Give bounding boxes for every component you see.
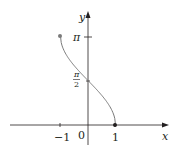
y-tick-label-pi-half-numerator: π bbox=[73, 70, 80, 79]
y-tick-label-pi-half-denominator: 2 bbox=[74, 80, 79, 89]
x-tick-label-1: 1 bbox=[112, 131, 119, 144]
x-tick-label-neg1: −1 bbox=[54, 131, 70, 144]
start-point bbox=[58, 34, 62, 38]
end-point bbox=[113, 123, 117, 127]
y-axis-label: y bbox=[78, 11, 86, 24]
y-tick-label-pi: π bbox=[72, 31, 81, 44]
x-tick-label-0: 0 bbox=[78, 129, 85, 142]
x-axis-label: x bbox=[162, 130, 169, 143]
x-axis-arrow-icon bbox=[162, 123, 169, 128]
y-axis-arrow-icon bbox=[86, 11, 91, 18]
arccos-graph: y x −1 0 1 π π 2 bbox=[0, 0, 180, 151]
